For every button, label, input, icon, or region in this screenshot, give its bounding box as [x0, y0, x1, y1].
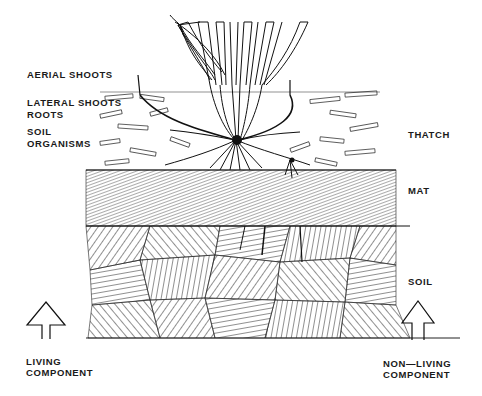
- label-roots: ROOTS: [27, 109, 64, 120]
- label-thatch: THATCH: [408, 129, 450, 140]
- label-nonliving-line1: NON—LIVING: [383, 358, 451, 369]
- lateral-crown: [290, 158, 295, 163]
- label-nonliving-line2: COMPONENT: [383, 369, 450, 380]
- label-soil: SOIL: [408, 276, 433, 287]
- label-lateral-shoots: LATERAL SHOOTS: [27, 97, 122, 108]
- label-aerial-shoots: AERIAL SHOOTS: [27, 69, 113, 80]
- label-soil-organisms-line2: ORGANISMS: [27, 138, 91, 149]
- label-mat: MAT: [408, 185, 430, 196]
- label-living-line2: COMPONENT: [26, 367, 93, 378]
- thatch-layer: [100, 91, 380, 166]
- label-soil-organisms-line1: SOIL: [27, 126, 52, 137]
- grass-plant: [138, 15, 310, 178]
- up-arrow-icon: [27, 302, 65, 339]
- turf-profile-illustration: [0, 0, 482, 396]
- label-living-line1: LIVING: [26, 356, 61, 367]
- plant-crown: [232, 135, 242, 145]
